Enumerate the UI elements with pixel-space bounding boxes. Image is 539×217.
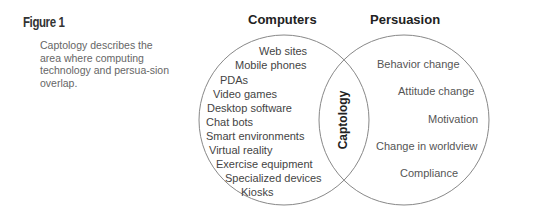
computers-item: Web sites (259, 45, 307, 57)
computers-item: PDAs (220, 74, 248, 86)
persuasion-item: Compliance (400, 167, 458, 179)
computers-item: Chat bots (206, 116, 253, 128)
computers-item: Exercise equipment (216, 158, 313, 170)
persuasion-item: Attitude change (398, 85, 474, 97)
computers-item: Mobile phones (235, 59, 307, 71)
captology-label: Captology (336, 91, 350, 150)
computers-item: Desktop software (207, 102, 292, 114)
persuasion-item: Motivation (428, 113, 478, 125)
computers-item: Virtual reality (209, 144, 272, 156)
computers-item: Kiosks (241, 186, 273, 198)
computers-item: Video games (213, 88, 277, 100)
persuasion-item: Change in worldview (376, 140, 478, 152)
computers-heading: Computers (248, 12, 317, 27)
persuasion-heading: Persuasion (370, 12, 440, 27)
computers-item: Smart environments (206, 130, 304, 142)
persuasion-item: Behavior change (377, 58, 460, 70)
computers-item: Specialized devices (225, 172, 322, 184)
